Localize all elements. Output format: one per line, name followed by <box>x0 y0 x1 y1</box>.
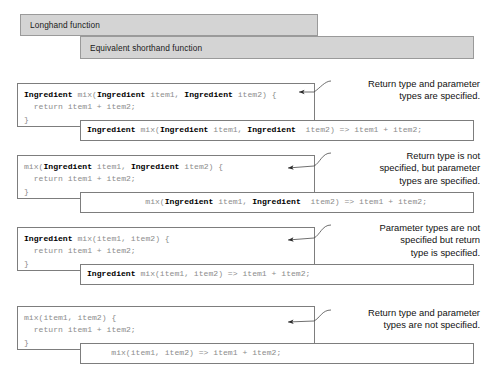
shorthand-param-name-2a: item1, <box>213 197 252 206</box>
code-param-name-1b: item2) { <box>233 90 277 99</box>
shorthand-fn-open-4: mix(item1, item2) => item1 + item2; <box>111 348 281 357</box>
code-param-name-1a: item1, <box>145 90 184 99</box>
shorthand-param-type-2b: Ingredient <box>252 197 301 206</box>
annotation-1: Return type and parameter types are spec… <box>330 78 480 103</box>
code-param-name-2b: item2) { <box>179 162 223 171</box>
code-body-2: return item1 + item2; <box>24 174 136 183</box>
code-close-4: } <box>24 338 29 347</box>
shorthand-code-3: Ingredient mix(item1, item2) => item1 + … <box>81 268 310 280</box>
shorthand-fn-open-2: mix( <box>145 197 164 206</box>
code-close-3: } <box>24 259 29 268</box>
shorthand-code-box-3: Ingredient mix(item1, item2) => item1 + … <box>80 264 474 285</box>
shorthand-return-type-1: Ingredient <box>87 125 136 134</box>
shorthand-indent-2 <box>87 197 145 206</box>
code-param-name-2a: item1, <box>92 162 131 171</box>
shorthand-code-2: mix(Ingredient item1, Ingredient item2) … <box>81 196 427 208</box>
shorthand-param-type-2a: Ingredient <box>165 197 214 206</box>
banner-shorthand-function: Equivalent shorthand function <box>80 36 474 59</box>
code-param-type-1b: Ingredient <box>184 90 233 99</box>
code-return-type-1: Ingredient <box>24 90 73 99</box>
code-fn-open-1: mix( <box>73 90 97 99</box>
code-body-3: return item1 + item2; <box>24 246 136 255</box>
annotation-3: Parameter types are not specified but re… <box>330 222 480 259</box>
shorthand-fn-open-3: mix(item1, item2) => item1 + item2; <box>136 269 311 278</box>
code-fn-open-3: mix(item1, item2) { <box>73 234 170 243</box>
figure-container: Longhand function Equivalent shorthand f… <box>0 0 486 383</box>
shorthand-param-type-1a: Ingredient <box>160 125 209 134</box>
shorthand-code-box-2: mix(Ingredient item1, Ingredient item2) … <box>80 192 474 213</box>
code-fn-open-4: mix(item1, item2) { <box>24 313 116 322</box>
annotation-4: Return type and parameter types are not … <box>330 307 480 332</box>
banner-longhand-function: Longhand function <box>20 14 318 36</box>
code-body-4: return item1 + item2; <box>24 325 136 334</box>
shorthand-fn-open-1: mix( <box>136 125 160 134</box>
shorthand-return-type-3: Ingredient <box>87 269 136 278</box>
shorthand-param-name-1a: item1, <box>208 125 247 134</box>
code-body-1: return item1 + item2; <box>24 102 136 111</box>
shorthand-code-4: mix(item1, item2) => item1 + item2; <box>81 347 281 359</box>
banner-longhand-label: Longhand function <box>21 20 100 30</box>
code-param-type-1a: Ingredient <box>97 90 146 99</box>
shorthand-param-name-2b: item2) => item1 + item2; <box>301 197 427 206</box>
code-param-type-2b: Ingredient <box>131 162 180 171</box>
shorthand-code-box-4: mix(item1, item2) => item1 + item2; <box>80 343 474 364</box>
shorthand-code-1: Ingredient mix(Ingredient item1, Ingredi… <box>81 124 422 136</box>
shorthand-code-box-1: Ingredient mix(Ingredient item1, Ingredi… <box>80 120 474 141</box>
code-fn-open-2: mix( <box>24 162 43 171</box>
code-return-type-3: Ingredient <box>24 234 73 243</box>
shorthand-indent-4 <box>87 348 111 357</box>
code-close-1: } <box>24 115 29 124</box>
shorthand-param-name-1b: item2) => item1 + item2; <box>296 125 422 134</box>
annotation-2: Return type is not specified, but parame… <box>330 150 480 187</box>
shorthand-param-type-1b: Ingredient <box>247 125 296 134</box>
banner-shorthand-label: Equivalent shorthand function <box>81 43 202 53</box>
code-param-type-2a: Ingredient <box>43 162 92 171</box>
code-close-2: } <box>24 187 29 196</box>
